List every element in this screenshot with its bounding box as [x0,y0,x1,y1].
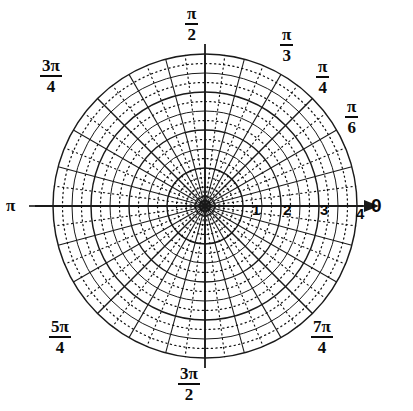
angle-label-three-pi-over-4: 3π4 [40,57,62,96]
spoke-solid [73,206,205,282]
fraction-denominator: 2 [185,25,198,43]
angle-label-pi-over-6: π6 [345,98,358,137]
fraction-numerator: π [316,58,329,78]
spoke-solid [205,99,312,206]
angle-label-zero: 0 [371,196,382,215]
fraction: 5π4 [49,318,71,357]
spoke-solid [98,206,205,313]
angle-label-pi-over-3: π3 [280,26,293,65]
fraction: π3 [280,26,293,65]
spoke-solid [205,59,244,206]
fraction: 3π2 [178,365,200,404]
fraction-denominator: 4 [40,77,62,95]
fraction: π2 [185,5,198,44]
angle-label-pi: π [6,197,15,214]
spoke-solid [205,74,281,206]
fraction-numerator: 7π [311,318,333,338]
fraction-numerator: 5π [49,318,71,338]
spoke-solid [205,206,244,353]
fraction-numerator: π [345,98,358,118]
spoke-solid [205,206,337,282]
spoke-solid [58,206,205,245]
angle-label-pi-over-4: π4 [316,58,329,97]
fraction-numerator: 3π [40,57,62,77]
spoke-solid [205,206,352,245]
fraction-denominator: 4 [311,338,333,356]
fraction: π4 [316,58,329,97]
fraction-denominator: 4 [316,78,329,96]
spoke-solid [205,206,312,313]
angle-label-text: 0 [371,195,382,216]
fraction-denominator: 2 [178,385,200,403]
radial-tick-label-2: 2 [283,202,291,217]
angle-label-five-pi-over-4: 5π4 [49,318,71,357]
angle-label-pi-over-2: π2 [185,5,198,44]
angle-label-seven-pi-over-4: 7π4 [311,318,333,357]
fraction-numerator: π [280,26,293,46]
fraction-denominator: 3 [280,46,293,64]
spoke-solid [98,99,205,206]
radial-tick-label-3: 3 [320,202,328,217]
fraction: 7π4 [311,318,333,357]
fraction-denominator: 6 [345,118,358,136]
angle-label-three-pi-over-2: 3π2 [178,365,200,404]
fraction: 3π4 [40,57,62,96]
fraction-denominator: 4 [49,338,71,356]
fraction-numerator: π [185,5,198,25]
polar-grid-figure: 0π6π4π3π23π4π5π43π27π4 1234 [0,0,413,411]
spoke-solid [166,59,205,206]
spoke-solid [166,206,205,353]
fraction-numerator: 3π [178,365,200,385]
radial-tick-label-4: 4 [356,206,364,221]
spoke-solid [129,74,205,206]
spoke-solid [73,130,205,206]
angle-label-text: π [6,196,15,215]
spoke-solid [205,167,352,206]
spoke-solid [58,167,205,206]
radial-tick-label-1: 1 [252,202,260,217]
fraction: π6 [345,98,358,137]
